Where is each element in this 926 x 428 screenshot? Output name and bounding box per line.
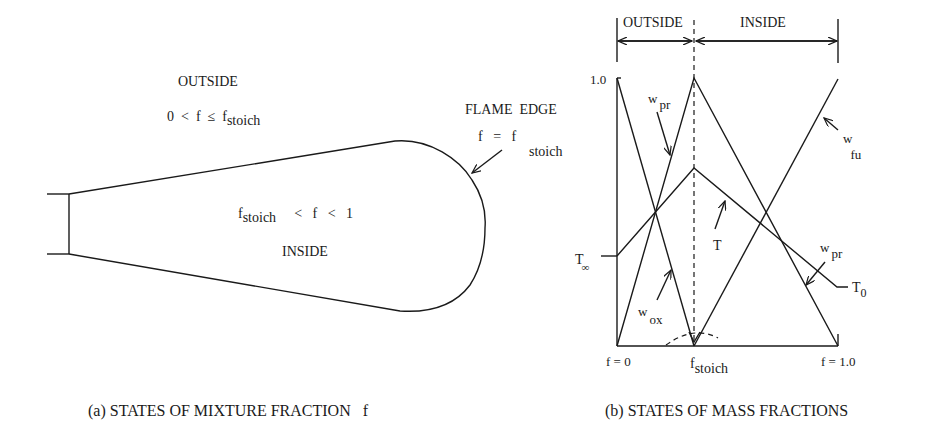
t-inf-label: T∞	[575, 252, 590, 273]
w-fu-label: wfu	[843, 131, 862, 162]
w-pr-left-label: wpr	[648, 91, 671, 112]
outside-condition: 0 < f ≤ fstoich	[167, 109, 260, 128]
svg-text:fstoich< f < 1: fstoich< f < 1	[238, 206, 353, 225]
panel-a: OUTSIDE 0 < f ≤ fstoich fstoich< f < 1 I…	[47, 74, 562, 420]
diagram-canvas: OUTSIDE 0 < f ≤ fstoich fstoich< f < 1 I…	[0, 0, 926, 428]
nozzle	[47, 194, 69, 254]
outside-label: OUTSIDE	[178, 74, 238, 89]
flame-edge-condition: f = f stoich	[478, 129, 562, 159]
flame-envelope	[69, 141, 485, 312]
t-0-label: T0	[852, 280, 867, 300]
svg-text:0 < f ≤ fstoich: 0 < f ≤ fstoich	[167, 109, 260, 128]
caption-a: (a) STATES OF MIXTURE FRACTION f	[88, 402, 369, 420]
flame-edge-label: FLAME EDGE	[465, 102, 557, 117]
region-outside-label: OUTSIDE	[623, 15, 683, 30]
w-pr-right-label: wpr	[820, 240, 843, 261]
x-tick-f0: f = 0	[606, 354, 631, 369]
panel-b: OUTSIDE INSIDE 1.0 wpr wfu T wpr wox	[575, 15, 867, 420]
y-tick-1: 1.0	[590, 72, 606, 87]
w-ox-label: wox	[638, 304, 663, 327]
svg-text:stoich: stoich	[529, 144, 562, 159]
w-pr-curve	[617, 78, 838, 346]
region-inside-label: INSIDE	[740, 15, 786, 30]
flame-edge-arrow	[472, 150, 502, 173]
x-tick-f1: f = 1.0	[821, 354, 855, 369]
temperature-label: T	[713, 238, 722, 253]
caption-b: (b) STATES OF MASS FRACTIONS	[605, 402, 848, 420]
inside-condition: fstoich< f < 1	[238, 206, 353, 225]
x-tick-fstoich: fstoich	[690, 356, 728, 376]
svg-text:f = f: f = f	[478, 129, 517, 144]
inside-label: INSIDE	[282, 244, 328, 259]
